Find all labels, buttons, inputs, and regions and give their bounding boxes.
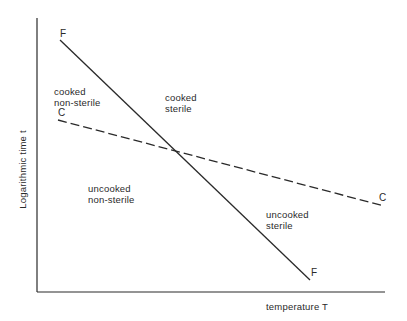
diagram-canvas xyxy=(0,0,407,321)
f-line-end-label: F xyxy=(311,268,317,278)
region-cooked-sterile: cooked sterile xyxy=(165,92,197,114)
region-line-2: sterile xyxy=(266,220,309,231)
c-line-start-label: C xyxy=(58,108,65,118)
y-axis-label: Logarithmic time t xyxy=(17,125,28,215)
region-line-1: cooked xyxy=(54,86,101,97)
region-line-1: cooked xyxy=(165,92,197,103)
region-uncooked-non-sterile: uncooked non-sterile xyxy=(88,183,135,205)
region-line-1: uncooked xyxy=(88,183,135,194)
region-line-2: sterile xyxy=(165,103,197,114)
region-line-2: non-sterile xyxy=(54,97,101,108)
f-line-solid xyxy=(60,40,310,280)
x-axis-label: temperature T xyxy=(266,301,328,312)
f-line-start-label: F xyxy=(60,29,66,39)
region-line-2: non-sterile xyxy=(88,194,135,205)
c-line-end-label: C xyxy=(379,193,386,203)
region-cooked-non-sterile: cooked non-sterile xyxy=(54,86,101,108)
region-uncooked-sterile: uncooked sterile xyxy=(266,209,309,231)
region-line-1: uncooked xyxy=(266,209,309,220)
